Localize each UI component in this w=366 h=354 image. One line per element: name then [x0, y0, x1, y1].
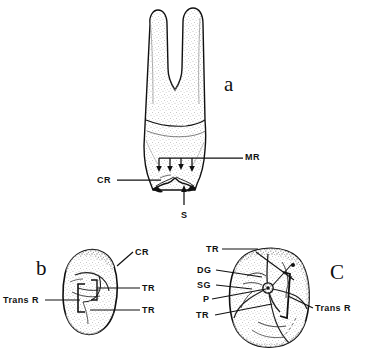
annotation-tr-c-1: TR — [206, 245, 219, 254]
annotation-tr-c-2: TR — [196, 311, 209, 320]
panel-letter-a: a — [224, 74, 233, 95]
annotation-tr-b-2: TR — [142, 306, 155, 315]
tooth-anatomy-figure — [0, 0, 366, 354]
annotation-p: P — [203, 295, 209, 304]
annotation-transr-c: Trans R — [315, 304, 351, 313]
annotation-cr-a: CR — [97, 176, 111, 185]
annotation-tr-b-1: TR — [142, 284, 155, 293]
annotation-dg: DG — [197, 266, 211, 275]
annotation-mr: MR — [245, 153, 260, 162]
panel-letter-b: b — [36, 258, 47, 279]
annotation-transr-b: Trans R — [3, 296, 39, 305]
annotation-s: S — [181, 211, 187, 220]
panel-letter-c: C — [330, 262, 344, 283]
annotation-cr-b: CR — [135, 248, 149, 257]
annotation-sg: SG — [197, 281, 211, 290]
